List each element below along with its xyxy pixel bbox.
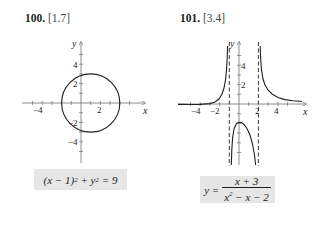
rational-equation-box: y = x + 3 x2 − x − 2 bbox=[200, 176, 275, 203]
tick-label: −4 bbox=[191, 106, 201, 116]
right-branch-curve bbox=[260, 46, 302, 102]
y-axis-label: y bbox=[230, 38, 234, 49]
tick-label: 2 bbox=[241, 80, 246, 90]
tick-label: 4 bbox=[241, 61, 246, 71]
x-axis-label: x bbox=[143, 105, 147, 116]
tick-label: 2 bbox=[73, 79, 78, 89]
tick-label: 4 bbox=[73, 60, 78, 70]
eq-part: = 9 bbox=[99, 174, 117, 186]
left-branch-curve bbox=[178, 46, 228, 105]
denominator: x2 − x − 2 bbox=[222, 187, 271, 203]
fraction: x + 3 x2 − x − 2 bbox=[222, 176, 271, 203]
x-axis-label: x bbox=[303, 106, 307, 117]
tick-label: −2 bbox=[68, 118, 78, 128]
y-axis-label: y bbox=[72, 38, 76, 49]
den-part: − x − 2 bbox=[233, 191, 269, 203]
tick-label: 2 bbox=[97, 105, 102, 115]
circle-graph bbox=[22, 42, 145, 163]
circle-equation-box: (x − 1)2 + y2 = 9 bbox=[34, 169, 127, 190]
tick-label: −4 bbox=[68, 137, 78, 147]
tick-label: −2 bbox=[210, 106, 220, 116]
middle-branch-curve bbox=[231, 122, 255, 165]
eq-part: (x − 1) bbox=[44, 174, 75, 186]
numerator: x + 3 bbox=[233, 176, 260, 187]
tick-label: 2 bbox=[255, 106, 260, 116]
tick-label: −4 bbox=[33, 105, 43, 115]
eq-part: + y bbox=[78, 174, 96, 186]
tick-label: 4 bbox=[274, 106, 279, 116]
eq-lhs: y = bbox=[204, 184, 219, 196]
